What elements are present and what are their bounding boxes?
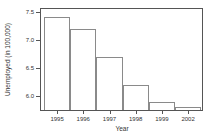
y-tick-label: 6.5 [16,64,34,72]
unemployment-bar-chart: Unemployed (in 100,000) 6.06.57.07.51995… [0,0,209,135]
y-tick-mark [36,40,40,41]
x-tick-label: 1995 [44,115,70,123]
bar-1998 [123,85,149,110]
x-tick-mark [83,111,84,114]
x-tick-label: 2002 [175,115,201,123]
x-tick-label: 1998 [123,115,149,123]
y-tick-label: 6.0 [16,92,34,100]
y-axis-title-text: Unemployed (in 100,000) [4,23,11,96]
y-tick-mark [36,12,40,13]
x-tick-mark [110,111,111,114]
x-tick-label: 1999 [149,115,175,123]
x-tick-label: 1996 [70,115,96,123]
x-tick-mark [188,111,189,114]
y-tick-mark [36,68,40,69]
bar-1995 [44,17,70,110]
bar-1999 [149,102,175,110]
x-axis-title: Year [92,125,152,132]
bar-1997 [96,57,122,110]
y-tick-mark [36,96,40,97]
x-tick-mark [162,111,163,114]
x-tick-mark [57,111,58,114]
y-tick-label: 7.5 [16,8,34,16]
y-axis-title: Unemployed (in 100,000) [0,8,14,111]
bar-1996 [70,29,96,110]
bar-2002 [175,107,201,110]
x-tick-label: 1997 [97,115,123,123]
y-tick-label: 7.0 [16,36,34,44]
plot-area [40,8,203,111]
x-tick-mark [136,111,137,114]
